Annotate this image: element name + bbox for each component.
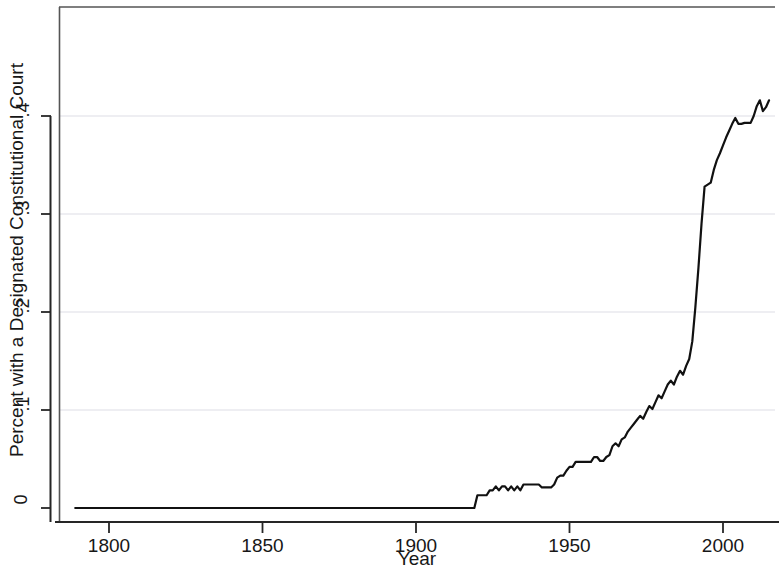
- y-tick-label-2: .2: [13, 299, 34, 325]
- gridlines: [60, 116, 775, 410]
- x-tick-label-0: 1800: [69, 535, 149, 557]
- chart-figure: Percent with a Designated Constitutional…: [0, 0, 782, 575]
- y-tick-label-1: .1: [13, 397, 34, 423]
- data-line-series: [75, 100, 769, 508]
- plot-area: [0, 0, 782, 575]
- plot-frame: [59, 7, 775, 522]
- x-axis-ticks: [109, 523, 723, 533]
- x-tick-label-2: 1900: [376, 535, 456, 557]
- x-tick-label-4: 2000: [683, 535, 763, 557]
- y-tick-label-4: .4: [13, 103, 34, 129]
- y-tick-label-0: 0: [11, 495, 32, 521]
- y-tick-label-3: .3: [13, 201, 34, 227]
- x-tick-label-3: 1950: [530, 535, 610, 557]
- axis-lines: [51, 116, 780, 522]
- x-tick-label-1: 1850: [223, 535, 303, 557]
